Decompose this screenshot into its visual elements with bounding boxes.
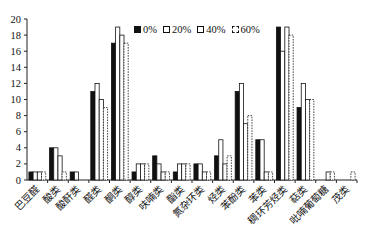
bar <box>177 164 181 180</box>
x-tick-label: 酮类 <box>102 183 125 206</box>
y-tick-label: 12 <box>11 78 22 89</box>
x-tick-label: 稠环芳烃类 <box>245 183 289 227</box>
bar <box>198 164 202 180</box>
bar <box>276 27 280 180</box>
bar <box>268 172 272 180</box>
y-tick-label: 18 <box>11 30 22 41</box>
bar <box>157 164 161 180</box>
legend-item-0: 0% <box>134 24 157 35</box>
y-tick-label: 6 <box>16 126 21 137</box>
bar <box>215 156 219 180</box>
legend-item-3: 60% <box>232 24 260 35</box>
x-axis-labels: 巴豆醛酸类酸酐类醛类酮类醇类呋喃类酯类氮杂环类烃类苯酚类苯类稠环芳烃类萜类吡喃葡… <box>12 183 351 227</box>
legend-swatch-white-icon <box>163 26 170 33</box>
bar <box>99 100 103 181</box>
bar <box>260 140 264 180</box>
bars <box>29 27 355 180</box>
bar <box>244 124 248 180</box>
legend-item-2: 40% <box>197 24 225 35</box>
bar <box>223 164 227 180</box>
legend-swatch-dashed-icon <box>232 26 239 33</box>
bar <box>256 140 260 180</box>
bar <box>120 35 124 180</box>
bar <box>54 148 58 180</box>
bar <box>235 91 239 180</box>
bar <box>91 91 95 180</box>
bar <box>116 27 120 180</box>
bar <box>165 172 169 180</box>
bar <box>186 164 190 180</box>
y-tick-label: 14 <box>11 62 22 73</box>
y-tick-label: 2 <box>16 158 21 169</box>
bar <box>305 100 309 181</box>
bar <box>248 116 252 180</box>
bar <box>239 83 243 180</box>
bar <box>297 108 301 180</box>
bar <box>103 108 107 180</box>
bar <box>74 172 78 180</box>
bar <box>202 172 206 180</box>
bar-chart: 02468101214161820 巴豆醛酸类酸酐类醛类酮类醇类呋喃类酯类氮杂环… <box>0 0 369 241</box>
bar <box>289 35 293 180</box>
bar <box>132 172 136 180</box>
y-tick-label: 16 <box>11 46 22 57</box>
x-tick-label: 醛类 <box>81 183 104 206</box>
bar <box>58 156 62 180</box>
y-tick-label: 8 <box>16 110 21 121</box>
bar <box>194 164 198 180</box>
bar <box>37 172 41 180</box>
bar <box>95 83 99 180</box>
bar <box>330 172 334 180</box>
bar <box>182 164 186 180</box>
bar <box>219 140 223 180</box>
bar <box>153 156 157 180</box>
bar <box>70 172 74 180</box>
bar <box>124 43 128 180</box>
y-tick-label: 0 <box>16 175 21 186</box>
legend-swatch-solid-icon <box>134 26 141 33</box>
bar <box>42 172 46 180</box>
bar <box>145 164 149 180</box>
x-tick-label: 吡喃葡萄糖 <box>287 183 331 227</box>
bar <box>281 51 285 180</box>
bar <box>207 172 211 180</box>
legend: 0% 20% 40% 60% <box>134 24 260 35</box>
bar <box>33 172 37 180</box>
y-tick-label: 4 <box>16 142 22 153</box>
legend-item-1: 20% <box>163 24 191 35</box>
bar <box>227 156 231 180</box>
bar <box>62 172 66 180</box>
bar <box>161 172 165 180</box>
bar <box>351 172 355 180</box>
y-tick-label: 20 <box>11 14 22 25</box>
bar <box>326 172 330 180</box>
bar <box>285 27 289 180</box>
bar <box>29 172 33 180</box>
bar <box>310 100 314 181</box>
x-tick-label: 巴豆醛 <box>12 183 42 213</box>
bar <box>136 164 140 180</box>
x-tick-label: 茂类 <box>328 183 351 206</box>
bar <box>111 43 115 180</box>
bar <box>173 172 177 180</box>
legend-swatch-white-icon <box>197 26 204 33</box>
bar <box>140 164 144 180</box>
bar <box>50 148 54 180</box>
y-tick-label: 10 <box>11 94 22 105</box>
bar <box>264 172 268 180</box>
bar <box>301 83 305 180</box>
